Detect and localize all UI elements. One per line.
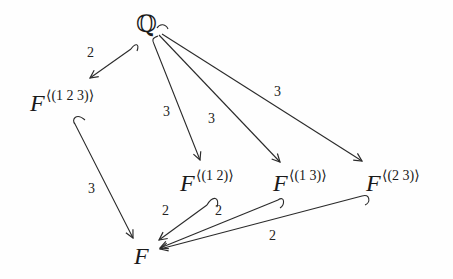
edge-Q-to-F23: 3 bbox=[162, 34, 362, 161]
node-F-23: F ⟨(2 3)⟩ bbox=[365, 168, 420, 196]
edge-F12-to-F: 2 bbox=[159, 198, 218, 240]
edge-label: 3 bbox=[274, 84, 281, 99]
lattice-diagram: ℚ F ⟨(1 2 3)⟩ F ⟨(1 2)⟩ F ⟨(1 3)⟩ F ⟨(2 … bbox=[0, 0, 453, 279]
edge-Q-to-F123: 2 bbox=[87, 45, 138, 78]
edge-F23-to-F: 2 bbox=[160, 195, 369, 249]
edge-Q-to-F13: 3 bbox=[159, 35, 280, 162]
node-F: F bbox=[133, 243, 149, 269]
node-F-123-base: F bbox=[29, 90, 45, 116]
node-F-12-base: F bbox=[179, 170, 195, 196]
node-F-13-sup: ⟨(1 3)⟩ bbox=[289, 168, 327, 184]
node-F-123: F ⟨(1 2 3)⟩ bbox=[29, 88, 94, 116]
node-F-12: F ⟨(1 2)⟩ bbox=[179, 168, 234, 196]
node-F-13-base: F bbox=[272, 170, 288, 196]
node-F-123-sup: ⟨(1 2 3)⟩ bbox=[46, 88, 94, 104]
edge-F13-to-F: 2 bbox=[160, 199, 284, 248]
node-F-13: F ⟨(1 3)⟩ bbox=[272, 168, 327, 196]
edge-label: 3 bbox=[208, 111, 215, 126]
edge-label: 3 bbox=[88, 181, 95, 196]
edge-label: 2 bbox=[215, 203, 222, 218]
node-F-23-sup: ⟨(2 3)⟩ bbox=[382, 168, 420, 184]
node-rationals: ℚ bbox=[136, 11, 157, 37]
node-F-23-base: F bbox=[365, 170, 381, 196]
edge-F123-to-F: 3 bbox=[74, 117, 133, 238]
edge-Q-to-F12: 3 bbox=[153, 25, 200, 160]
edge-label: 2 bbox=[87, 45, 94, 60]
edge-label: 2 bbox=[162, 203, 169, 218]
diagram-canvas: ℚ F ⟨(1 2 3)⟩ F ⟨(1 2)⟩ F ⟨(1 3)⟩ F ⟨(2 … bbox=[0, 0, 453, 279]
edge-label: 3 bbox=[163, 104, 170, 119]
node-F-12-sup: ⟨(1 2)⟩ bbox=[196, 168, 234, 184]
edge-label: 2 bbox=[269, 228, 276, 243]
